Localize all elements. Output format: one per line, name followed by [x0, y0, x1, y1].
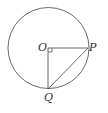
label-q: Q [44, 91, 53, 104]
geometry-diagram: O P Q [0, 0, 108, 113]
label-o: O [38, 41, 47, 54]
right-angle-marker [48, 48, 52, 52]
chord-pq [48, 48, 88, 89]
label-p: P [88, 41, 97, 54]
